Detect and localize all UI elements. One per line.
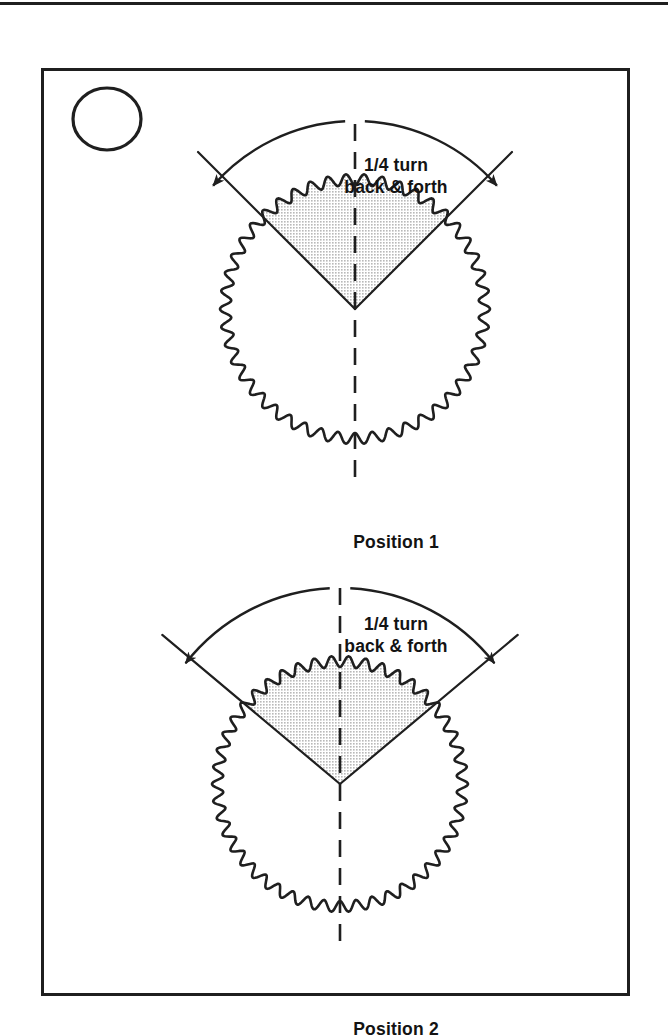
- step-number-badge: [73, 88, 141, 150]
- position-caption-1: Position 1: [276, 532, 516, 553]
- figure-frame: 1/4 turn back & forth Position 1 1/4 tur…: [41, 68, 630, 996]
- turn-instruction-label-2: 1/4 turn back & forth: [276, 613, 516, 657]
- position-caption-2: Position 2: [276, 1019, 516, 1035]
- manual-page: 1/4 turn back & forth Position 1 1/4 tur…: [0, 0, 668, 1035]
- page-top-rule: [0, 2, 668, 5]
- turn-instruction-label-1: 1/4 turn back & forth: [276, 154, 516, 198]
